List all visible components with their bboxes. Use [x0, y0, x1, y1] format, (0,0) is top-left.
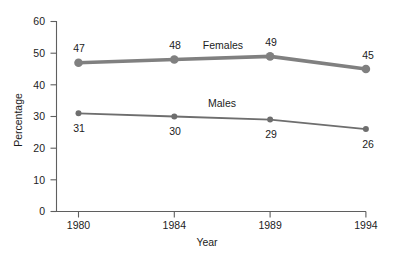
females-marker-1984 [170, 55, 179, 64]
males-label-1980: 31 [73, 122, 85, 134]
y-tick-label-60: 60 [33, 15, 45, 27]
y-tick-label-20: 20 [33, 142, 45, 154]
x-tick-label-1989: 1989 [258, 219, 282, 231]
females-marker-1989 [266, 52, 275, 61]
x-axis-tick-labels: 1980 1984 1989 1994 [67, 219, 378, 231]
series-females [74, 52, 370, 73]
females-label-1980: 47 [73, 42, 85, 54]
males-label-1984: 30 [169, 125, 181, 137]
x-axis-ticks [79, 212, 366, 218]
females-label-1989: 49 [265, 36, 277, 48]
y-axis-title: Percentage [12, 93, 24, 147]
males-marker-1984 [171, 114, 177, 120]
females-label-1984: 48 [169, 39, 181, 51]
females-label-1994: 45 [362, 49, 374, 61]
males-line [79, 113, 366, 129]
females-line [79, 56, 366, 69]
females-marker-1980 [74, 58, 83, 67]
y-axis-ticks [51, 22, 57, 212]
males-label-1989: 29 [265, 128, 277, 140]
females-marker-1994 [362, 65, 371, 74]
males-marker-1989 [267, 117, 273, 123]
y-tick-label-40: 40 [33, 79, 45, 91]
males-label-1994: 26 [362, 138, 374, 150]
y-tick-label-10: 10 [33, 174, 45, 186]
y-axis-tick-labels: 60 50 40 30 20 10 0 [33, 15, 45, 217]
line-chart: 60 50 40 30 20 10 0 1980 1984 1989 1994 … [0, 0, 394, 254]
x-tick-label-1994: 1994 [354, 219, 378, 231]
series-label-males: Males [208, 97, 236, 109]
series-label-females: Females [203, 39, 243, 51]
series-males [76, 110, 369, 132]
chart-canvas: 60 50 40 30 20 10 0 1980 1984 1989 1994 … [0, 0, 394, 254]
x-axis-title: Year [196, 236, 218, 248]
males-marker-1994 [363, 126, 369, 132]
y-tick-label-0: 0 [39, 205, 45, 217]
males-marker-1980 [76, 110, 82, 116]
x-tick-label-1980: 1980 [67, 219, 91, 231]
x-tick-label-1984: 1984 [163, 219, 187, 231]
y-tick-label-30: 30 [33, 110, 45, 122]
y-tick-label-50: 50 [33, 47, 45, 59]
